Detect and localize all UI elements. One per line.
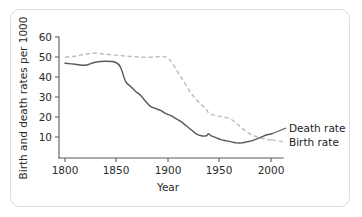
legend-label-death-rate: Death rate bbox=[289, 122, 345, 134]
y-tick-label-40: 40 bbox=[39, 71, 52, 83]
birth-rate-line bbox=[65, 53, 272, 140]
birth-rate-leader bbox=[272, 140, 286, 142]
y-tick-marks bbox=[55, 37, 59, 137]
x-axis-title: Year bbox=[156, 181, 180, 193]
legend-label-birth-rate: Birth rate bbox=[289, 136, 339, 148]
y-tick-label-50: 50 bbox=[39, 51, 52, 63]
demographic-transition-chart: 60 50 40 30 20 10 Birth and death rates … bbox=[11, 10, 351, 208]
death-rate-leader bbox=[272, 128, 286, 134]
y-tick-label-10: 10 bbox=[39, 131, 52, 143]
y-tick-label-20: 20 bbox=[39, 111, 52, 123]
y-tick-label-60: 60 bbox=[39, 31, 52, 43]
y-axis-title: Birth and death rates per 1000 bbox=[17, 17, 29, 180]
x-tick-label-2000: 2000 bbox=[258, 164, 285, 176]
x-tick-marks bbox=[65, 158, 271, 162]
y-axis-group: 60 50 40 30 20 10 Birth and death rates … bbox=[17, 17, 59, 180]
y-tick-label-30: 30 bbox=[39, 91, 52, 103]
x-tick-label-1900: 1900 bbox=[155, 164, 182, 176]
x-axis-group: 1800 1850 1900 1950 2000 Year bbox=[52, 158, 285, 193]
death-rate-line bbox=[65, 61, 272, 143]
x-tick-label-1950: 1950 bbox=[206, 164, 233, 176]
x-tick-label-1850: 1850 bbox=[103, 164, 130, 176]
x-tick-label-1800: 1800 bbox=[52, 164, 79, 176]
chart-card: 60 50 40 30 20 10 Birth and death rates … bbox=[10, 9, 350, 207]
